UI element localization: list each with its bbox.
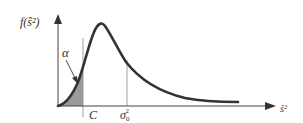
x-axis-arrow-icon [265, 102, 276, 110]
critical-value-label: C [89, 108, 98, 122]
density-curve [58, 24, 238, 106]
alpha-label: α [62, 45, 70, 60]
sigma0-label: σ02 [120, 107, 130, 123]
y-axis-arrow-icon [54, 14, 62, 24]
alpha-pointer-arrow-icon [72, 76, 78, 84]
y-axis-label: f(ŝ²) [20, 15, 40, 29]
density-diagram: f(ŝ²) α C σ02 ŝ² [0, 0, 303, 123]
x-axis-label: ŝ² [280, 103, 288, 114]
